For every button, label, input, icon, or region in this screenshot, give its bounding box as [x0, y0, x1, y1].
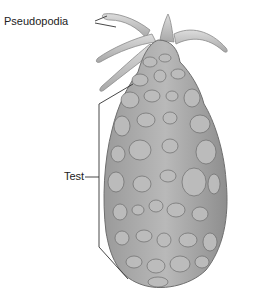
test-label: Test	[64, 171, 84, 182]
test-shell	[104, 40, 227, 288]
pseudopodia-leader-lower	[95, 23, 116, 27]
amoeba-illustration	[0, 0, 260, 298]
pseudopod-tip	[160, 14, 174, 42]
pseudopod-right	[174, 30, 227, 52]
pseudopodia-label: Pseudopodia	[4, 16, 68, 27]
